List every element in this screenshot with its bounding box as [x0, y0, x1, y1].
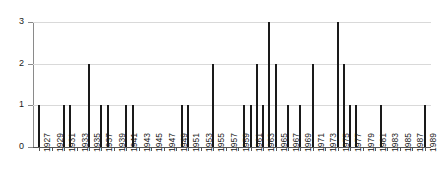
gridline [33, 105, 431, 106]
x-tick-mark [151, 148, 152, 151]
x-tick-mark [52, 148, 53, 151]
x-tick-mark [387, 148, 388, 151]
x-tick-mark [338, 148, 339, 151]
x-tick-mark [350, 148, 351, 151]
x-tick-mark [226, 148, 227, 151]
x-tick-mark [325, 148, 326, 151]
x-tick-mark [188, 148, 189, 151]
x-tick-mark [288, 148, 289, 151]
x-tick-mark [64, 148, 65, 151]
x-tick-mark [251, 148, 252, 151]
bar-chart: 0123 19271929193119331935193719391941194… [0, 0, 437, 192]
x-tick-label: 1989 [429, 133, 437, 152]
x-tick-mark [400, 148, 401, 151]
x-tick-mark [276, 148, 277, 151]
plot-area [33, 22, 431, 147]
y-tick-label: 3 [0, 17, 24, 26]
x-tick-mark [101, 148, 102, 151]
y-tick-mark [28, 64, 33, 65]
gridline [33, 64, 431, 65]
x-tick-mark [176, 148, 177, 151]
x-tick-mark [39, 148, 40, 151]
y-tick-mark [28, 147, 33, 148]
bar [38, 105, 40, 147]
x-tick-mark [213, 148, 214, 151]
gridline [33, 22, 431, 23]
y-tick-label: 2 [0, 59, 24, 68]
x-tick-mark [425, 148, 426, 151]
x-tick-mark [126, 148, 127, 151]
y-tick-label: 1 [0, 100, 24, 109]
x-tick-mark [164, 148, 165, 151]
bar [268, 22, 270, 147]
x-tick-mark [77, 148, 78, 151]
y-tick-label: 0 [0, 142, 24, 151]
x-tick-mark [263, 148, 264, 151]
y-tick-mark [28, 22, 33, 23]
x-tick-mark [89, 148, 90, 151]
x-tick-mark [238, 148, 239, 151]
x-tick-mark [363, 148, 364, 151]
y-tick-mark [28, 105, 33, 106]
x-tick-mark [139, 148, 140, 151]
bar [337, 22, 339, 147]
x-tick-mark [412, 148, 413, 151]
y-axis-line [33, 22, 34, 148]
x-tick-mark [114, 148, 115, 151]
x-tick-mark [375, 148, 376, 151]
x-tick-mark [201, 148, 202, 151]
x-tick-mark [300, 148, 301, 151]
x-tick-mark [313, 148, 314, 151]
